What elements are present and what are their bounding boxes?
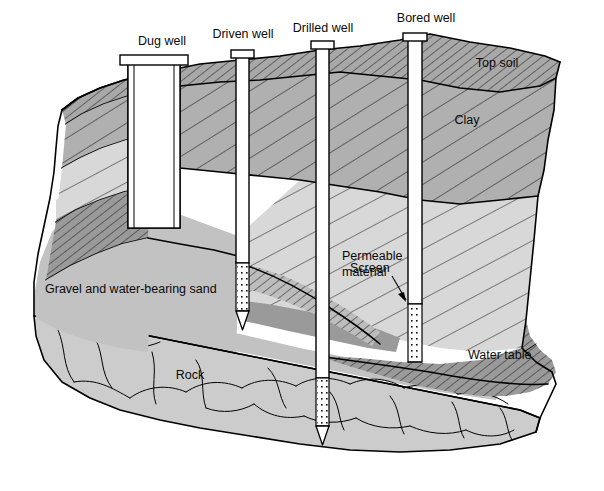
bored-well-cap bbox=[403, 33, 427, 41]
driven-well-shaft bbox=[236, 57, 249, 263]
label-dug-well: Dug well bbox=[138, 34, 186, 48]
label-driven-well: Driven well bbox=[212, 27, 273, 41]
driven-well-cap bbox=[231, 50, 254, 58]
layer-confining bbox=[148, 238, 238, 360]
well-dug[interactable] bbox=[120, 55, 188, 228]
label-top-soil: Top soil bbox=[476, 56, 518, 70]
dug-well-shaft-outline bbox=[128, 62, 180, 228]
drilled-well-shaft bbox=[316, 48, 329, 378]
label-water-table: Water table bbox=[468, 348, 532, 362]
label-screen: Screen bbox=[350, 261, 390, 275]
dug-well-cap bbox=[120, 55, 188, 65]
bored-well-screen-perforations bbox=[409, 305, 421, 361]
bored-well-shaft bbox=[408, 40, 422, 304]
label-rock: Rock bbox=[176, 368, 205, 382]
geology-cross-section-diagram: Dug well Driven well Drilled well Bored … bbox=[0, 0, 604, 491]
label-drilled-well: Drilled well bbox=[293, 21, 353, 35]
driven-well-screen-perforations bbox=[237, 264, 248, 310]
drilled-well-cap bbox=[311, 41, 334, 49]
label-gravel-sand: Gravel and water-bearing sand bbox=[45, 282, 217, 296]
label-clay: Clay bbox=[454, 113, 480, 127]
drilled-well-screen-perforations bbox=[317, 379, 328, 425]
cross-section-svg: Dug well Driven well Drilled well Bored … bbox=[0, 0, 604, 491]
label-bored-well: Bored well bbox=[397, 11, 455, 25]
